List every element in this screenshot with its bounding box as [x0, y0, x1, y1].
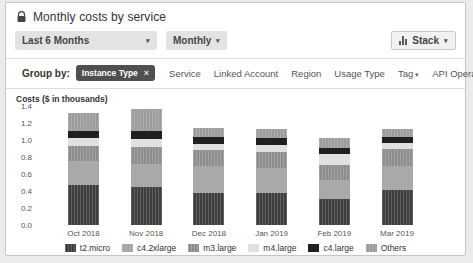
- legend-label: c4.large: [323, 243, 353, 253]
- x-axis-label: Nov 2018: [118, 229, 174, 238]
- bar-segment-t2.micro[interactable]: [319, 199, 350, 225]
- bar-segment-t2.micro[interactable]: [193, 193, 224, 225]
- x-axis-label: Jan 2019: [244, 229, 300, 238]
- groupby-link-usage-type[interactable]: Usage Type: [334, 68, 385, 79]
- legend-item-m3.large: m3.large: [188, 243, 236, 253]
- lock-icon: [16, 11, 27, 23]
- time-range-dropdown[interactable]: Last 6 Months ▾: [15, 31, 157, 50]
- time-range-value: Last 6 Months: [22, 35, 89, 46]
- groupby-links: ServiceLinked AccountRegionUsage TypeTag…: [169, 68, 473, 79]
- y-axis-tick: 0.4: [8, 187, 32, 196]
- stacked-bar-jan-2019[interactable]: [256, 129, 287, 225]
- page-title: Monthly costs by service: [33, 10, 166, 24]
- bar-segment-m4.large[interactable]: [256, 145, 287, 152]
- granularity-dropdown[interactable]: Monthly ▾: [166, 31, 227, 50]
- groupby-link-linked-account[interactable]: Linked Account: [214, 68, 278, 79]
- y-axis-tick: 0.8: [8, 153, 32, 162]
- stacked-bar-dec-2018[interactable]: [193, 128, 224, 225]
- legend-swatch: [366, 244, 377, 252]
- chevron-down-icon: ▾: [216, 37, 220, 45]
- chevron-down-icon: ▾: [444, 37, 448, 45]
- y-axis-tick: 0.0: [8, 221, 32, 230]
- bar-segment-m3.large[interactable]: [319, 165, 350, 180]
- bar-segment-c4.2xlarge[interactable]: [131, 164, 162, 187]
- y-axis-tick: 0.6: [8, 170, 32, 179]
- legend-label: t2.micro: [80, 243, 110, 253]
- bar-segment-Others[interactable]: [256, 129, 287, 138]
- groupby-link-service[interactable]: Service: [169, 68, 201, 79]
- bar-segment-c4.large[interactable]: [131, 131, 162, 140]
- bar-segment-m3.large[interactable]: [193, 150, 224, 166]
- legend-item-t2.micro: t2.micro: [65, 243, 110, 253]
- x-axis-label: Oct 2018: [56, 229, 112, 238]
- y-axis-tick: 1.2: [8, 119, 32, 128]
- chevron-down-icon: ▾: [415, 71, 419, 78]
- divider: [6, 88, 465, 89]
- bar-segment-m4.large[interactable]: [131, 139, 162, 147]
- legend-label: m3.large: [203, 243, 236, 253]
- chart-style-value: Stack: [412, 35, 439, 46]
- bar-segment-m3.large[interactable]: [131, 147, 162, 164]
- active-groupby-tag[interactable]: Instance Type ×: [76, 65, 155, 81]
- bar-segment-c4.large[interactable]: [256, 138, 287, 145]
- x-axis-label: Dec 2018: [181, 229, 237, 238]
- bar-segment-Others[interactable]: [382, 129, 413, 137]
- groupby-label: Group by:: [22, 68, 70, 79]
- bar-segment-t2.micro[interactable]: [382, 190, 413, 225]
- legend-item-c4.large: c4.large: [308, 243, 353, 253]
- bar-segment-c4.2xlarge[interactable]: [319, 180, 350, 199]
- y-axis-tick: 1.0: [8, 136, 32, 145]
- bar-segment-m3.large[interactable]: [68, 146, 99, 161]
- bar-segment-c4.2xlarge[interactable]: [193, 166, 224, 192]
- remove-tag-icon[interactable]: ×: [144, 69, 149, 78]
- groupby-link-region[interactable]: Region: [291, 68, 321, 79]
- bar-segment-m3.large[interactable]: [256, 152, 287, 168]
- legend-label: Others: [381, 243, 407, 253]
- y-axis-tick: 1.4: [8, 102, 32, 111]
- bar-segment-m4.large[interactable]: [319, 154, 350, 164]
- bar-segment-c4.large[interactable]: [319, 148, 350, 155]
- legend-swatch: [188, 244, 199, 252]
- legend-label: m4.large: [263, 243, 296, 253]
- stacked-bar-mar-2019[interactable]: [382, 129, 413, 225]
- chart-legend: t2.microc4.2xlargem3.largem4.largec4.lar…: [6, 243, 465, 253]
- granularity-value: Monthly: [173, 35, 211, 46]
- x-axis-label: Feb 2019: [306, 229, 362, 238]
- groupby-link-tag[interactable]: Tag▾: [398, 68, 419, 79]
- bar-segment-Others[interactable]: [193, 128, 224, 137]
- chart-section: Costs ($ in thousands) 0.00.20.40.60.81.…: [6, 94, 465, 253]
- legend-item-c4.2xlarge: c4.2xlarge: [122, 243, 176, 253]
- groupby-bar: Group by: Instance Type × ServiceLinked …: [6, 59, 465, 88]
- bar-segment-c4.2xlarge[interactable]: [382, 166, 413, 190]
- bar-segment-c4.large[interactable]: [193, 137, 224, 144]
- bar-segment-c4.2xlarge[interactable]: [256, 168, 287, 193]
- bar-segment-c4.2xlarge[interactable]: [68, 161, 99, 185]
- stacked-bar-oct-2018[interactable]: [68, 113, 99, 225]
- legend-swatch: [65, 244, 76, 252]
- legend-item-Others: Others: [366, 243, 407, 253]
- bar-segment-c4.large[interactable]: [68, 131, 99, 139]
- cost-explorer-card: Monthly costs by service Last 6 Months ▾…: [5, 2, 466, 256]
- bar-segment-Others[interactable]: [68, 113, 99, 131]
- bar-segment-t2.micro[interactable]: [68, 185, 99, 225]
- bar-segment-t2.micro[interactable]: [256, 193, 287, 225]
- bar-segment-t2.micro[interactable]: [131, 187, 162, 225]
- title-row: Monthly costs by service: [6, 3, 465, 28]
- bar-segment-Others[interactable]: [131, 109, 162, 131]
- bar-segment-c4.large[interactable]: [382, 137, 413, 144]
- stacked-bar-feb-2019[interactable]: [319, 138, 350, 226]
- chevron-down-icon: ▾: [146, 37, 150, 45]
- x-axis-label: Mar 2019: [369, 229, 425, 238]
- legend-label: c4.2xlarge: [137, 243, 176, 253]
- stacked-bar-chart: 0.00.20.40.60.81.01.21.4Oct 2018Nov 2018…: [6, 104, 465, 240]
- bar-segment-m4.large[interactable]: [68, 138, 99, 146]
- groupby-link-api-operation[interactable]: API Operation: [432, 68, 473, 79]
- bar-segment-m3.large[interactable]: [382, 149, 413, 166]
- y-axis-title: Costs ($ in thousands): [16, 94, 465, 104]
- chart-style-dropdown[interactable]: Stack ▾: [391, 31, 456, 50]
- stacked-bar-nov-2018[interactable]: [131, 109, 162, 225]
- legend-swatch: [308, 244, 319, 252]
- legend-swatch: [248, 244, 259, 252]
- bar-segment-Others[interactable]: [319, 138, 350, 148]
- controls-row: Last 6 Months ▾ Monthly ▾ Stack ▾: [6, 28, 465, 58]
